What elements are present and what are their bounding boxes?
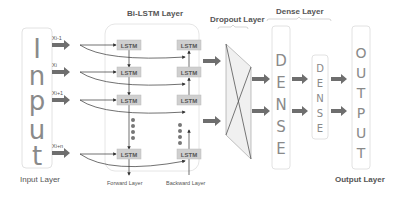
output-letter: O [355,45,366,61]
thick-arrow-icon [52,67,70,77]
input-label: Xi+n [52,143,63,149]
bilstm-layer: Bi-LSTM Layer [80,9,206,186]
input-letter: I [33,34,41,64]
input-label: Xi-1 [52,35,62,41]
dense-letter: S [317,108,323,119]
input-letter: p [29,86,46,116]
output-letter: U [356,125,366,141]
lstm-cell: LSTM [181,70,197,76]
thick-arrow-icon [331,74,347,84]
thick-arrow-icon [292,106,308,116]
output-layer: O U T P U T Output Layer [335,26,385,184]
dense-letter: S [276,118,286,136]
dense-layer: Dense Layer D E N S E D E N S E [267,7,331,169]
input-arrows: Xi-1 Xi Xi+1 Xi+n [52,35,70,158]
dense-letter: E [276,74,285,92]
thick-arrow-icon [331,106,347,116]
thick-arrow-icon [52,95,70,105]
input-letter: t [32,141,42,171]
dense-letter: D [316,63,324,74]
dense-letter: N [316,93,323,104]
lstm-cell: LSTM [181,98,197,104]
output-layer-label: Output Layer [335,175,385,184]
thick-arrow-icon [52,148,70,158]
output-letter: P [357,105,365,121]
dense-letter: D [275,52,287,70]
lstm-cell: LSTM [121,43,137,49]
bilstm-architecture-diagram: I n p u t Input Layer Xi-1 Xi Xi+1 Xi+n … [0,0,402,197]
bilstm-layer-title: Bi-LSTM Layer [127,9,183,18]
thick-arrow-icon [252,106,270,116]
lstm-cell: LSTM [181,43,197,49]
lstm-cell: LSTM [121,70,137,76]
lstm-cell: LSTM [121,152,137,158]
thick-arrow-icon [292,74,308,84]
thick-arrow-icon [52,40,70,50]
dense-layer-title: Dense Layer [276,7,324,16]
lstm-cell: LSTM [121,98,137,104]
dense-letter: E [317,78,323,89]
backward-layer-label: Backward Layer [166,180,206,186]
dense-letter: E [276,140,285,158]
forward-layer-label: Forward Layer [107,180,143,186]
thick-arrow-icon [252,74,270,84]
lstm-cell: LSTM [181,152,197,158]
input-layer-label: Input Layer [20,175,60,184]
input-layer: I n p u t Input Layer [20,28,60,184]
dropout-layer-title: Dropout Layer [210,15,265,24]
dropout-layer: Dropout Layer [210,15,265,159]
thick-arrow-icon [203,56,221,66]
input-label: Xi+1 [52,90,63,96]
output-letter: T [356,145,366,161]
thick-arrow-icon [203,116,221,126]
dense-letter: E [317,123,323,134]
input-label: Xi [52,62,57,68]
output-letter: T [356,85,366,101]
dense-letter: N [275,96,286,114]
output-letter: U [356,65,366,81]
